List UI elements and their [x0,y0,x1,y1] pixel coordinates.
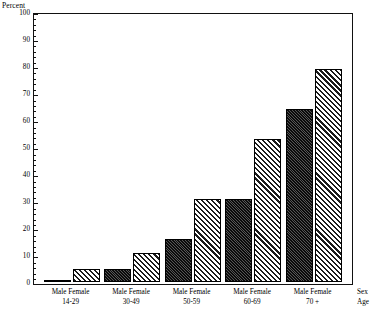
x-group-label: Male Female30-49 [97,288,165,307]
x-group-label: Male Female70 + [279,288,347,307]
x-group-label: Male Female50-59 [158,288,226,307]
y-tick-label: 50 [23,144,30,153]
bar-male-70 + [286,109,313,282]
x-group-age-label: 50-59 [158,298,226,308]
bar-female-30-49 [133,253,160,283]
bar-chart: Percent 1009080706050403020100 Male Fema… [0,0,377,313]
bar-female-60-69 [254,139,281,282]
plot-frame: 1009080706050403020100 [33,13,353,285]
bar-male-60-69 [225,199,252,283]
y-tick-label: 100 [19,9,30,18]
bar-male-30-49 [104,269,131,283]
x-group-sex-label: Male Female [279,288,347,298]
y-tick-label: 0 [26,279,30,288]
y-tick-label: 40 [23,171,30,180]
bar-female-70 + [315,69,342,283]
y-tick-label: 60 [23,117,30,126]
bar-female-50-59 [194,199,221,283]
x-group-sex-label: Male Female [218,288,286,298]
bar-male-14-29 [44,280,71,283]
x-group-label: Male Female14-29 [37,288,105,307]
y-tick-label: 90 [23,36,30,45]
x-group-sex-label: Male Female [97,288,165,298]
y-tick-label: 20 [23,225,30,234]
bar-male-50-59 [165,239,192,282]
y-tick-label: 30 [23,198,30,207]
bar-female-14-29 [73,269,100,283]
x-group-age-label: 30-49 [97,298,165,308]
y-tick-label: 10 [23,252,30,261]
y-tick-mark [34,284,38,285]
x-group-label: Male Female60-69 [218,288,286,307]
bars-area [36,14,352,282]
axis-caption-age: Age [357,298,369,308]
y-tick-label: 80 [23,63,30,72]
x-group-age-label: 70 + [279,298,347,308]
x-group-sex-label: Male Female [37,288,105,298]
axis-caption: Sex Age [357,288,369,307]
x-group-age-label: 14-29 [37,298,105,308]
axis-caption-sex: Sex [357,288,369,298]
x-group-sex-label: Male Female [158,288,226,298]
y-tick-label: 70 [23,90,30,99]
x-group-age-label: 60-69 [218,298,286,308]
